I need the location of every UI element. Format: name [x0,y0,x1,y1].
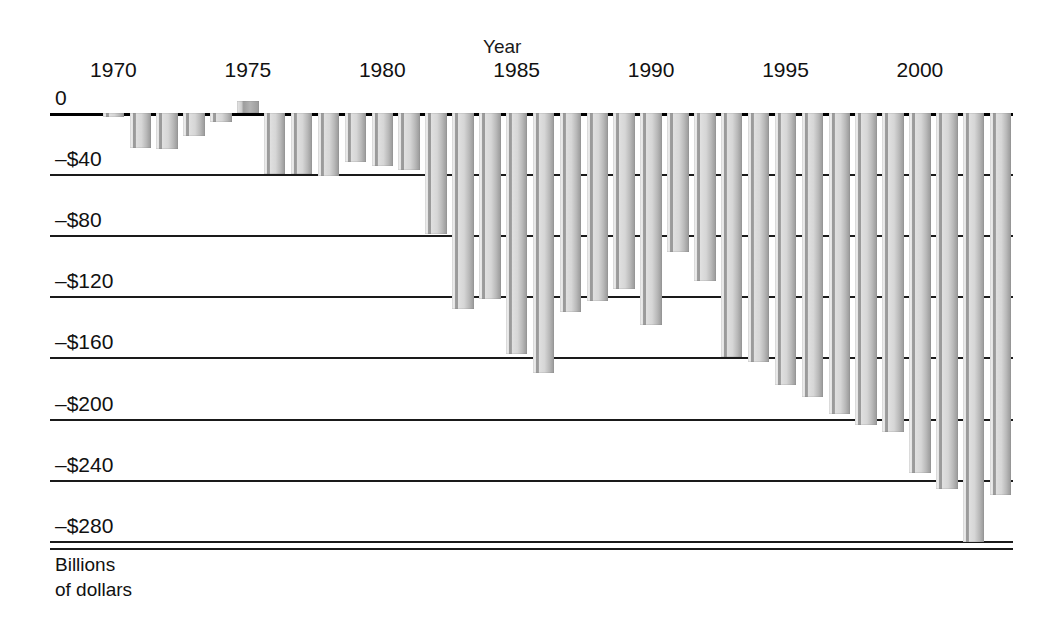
y-tick-label-0: 0 [55,86,67,110]
bar [291,113,313,174]
bar [721,113,743,357]
bar [345,113,367,162]
bar [855,113,877,425]
bar [667,113,689,252]
bar [560,113,582,312]
bar [264,113,286,174]
bar [237,101,259,113]
x-tick-label-1990: 1990 [628,58,675,82]
bar [775,113,797,385]
bar [936,113,958,489]
bar [372,113,394,166]
bar [318,113,340,176]
bar [694,113,716,281]
bar [210,113,232,122]
y-tick-label--80: –$80 [55,208,102,232]
x-tick-label-1995: 1995 [762,58,809,82]
x-tick-label-1985: 1985 [493,58,540,82]
bar [425,113,447,234]
bar [963,113,985,542]
plot-area [100,113,1014,541]
bar [103,113,125,117]
bar [640,113,662,325]
bar [183,113,205,136]
bar [130,113,152,148]
bar [479,113,501,299]
x-tick-label-1970: 1970 [90,58,137,82]
bar [452,113,474,309]
y-tick-label--40: –$40 [55,147,102,171]
bar [748,113,770,362]
bar [990,113,1012,495]
bar [829,113,851,414]
bar [398,113,420,170]
bar [882,113,904,432]
chart-baseline [50,548,1013,550]
x-axis-title: Year [483,36,521,58]
bar [533,113,555,373]
bar [909,113,931,473]
x-tick-label-1980: 1980 [359,58,406,82]
x-tick-label-1975: 1975 [224,58,271,82]
y-axis-unit-label: Billions of dollars [55,552,132,602]
bar [506,113,528,354]
chart-root: Year 1970197519801985199019952000 0–$40–… [0,0,1059,626]
x-tick-label-2000: 2000 [897,58,944,82]
bar [802,113,824,397]
bar [587,113,609,301]
bar [156,113,178,149]
bar [613,113,635,289]
